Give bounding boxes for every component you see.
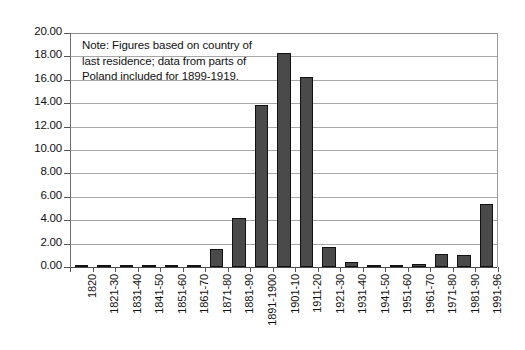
y-axis-tick-mark [64,220,70,221]
bar-chart: 20.0018.0016.0014.0012.0010.008.006.004.… [0,0,525,350]
x-axis-tick-mark [160,267,161,272]
x-axis-tick-mark [498,267,499,272]
x-axis-tick-mark [363,267,364,272]
x-axis-tick-label: 1851-60 [176,274,188,314]
y-axis-tick-label: 10.00 [0,142,62,154]
x-axis-tick-label: 1861-70 [198,274,210,314]
y-axis-tick-label: 0.00 [0,259,62,271]
x-axis-tick-label: 1831-40 [131,274,143,314]
y-axis-tick-label: 2.00 [0,236,62,248]
x-axis-tick-mark [453,267,454,272]
x-axis-tick-mark [138,267,139,272]
y-axis-tick-label: 14.00 [0,95,62,107]
bar-slot [300,33,314,267]
bar-slot [345,33,359,267]
x-axis-tick-mark [70,267,71,272]
x-axis-tick-label: 1911-20 [311,274,323,313]
x-axis-ticks [70,267,498,273]
y-axis-tick-label: 4.00 [0,212,62,224]
bar-slot [457,33,471,267]
x-axis-tick-label: 1881-90 [243,274,255,314]
chart-note-line: last residence; data from parts of [82,54,287,70]
x-axis-labels: 18201821-301831-401841-501851-601861-701… [70,274,498,346]
chart-note: Note: Figures based on country oflast re… [82,38,287,85]
x-axis-tick-label: 1921-30 [334,274,346,314]
y-axis-labels: 20.0018.0016.0014.0012.0010.008.006.004.… [0,0,66,350]
y-axis-tick-label: 12.00 [0,119,62,131]
y-axis-tick-label: 8.00 [0,165,62,177]
x-axis-tick-label: 1951-60 [401,274,413,314]
y-axis-tick-mark [64,244,70,245]
chart-note-line: Poland included for 1899-1919. [82,69,287,85]
bar[interactable] [435,254,449,267]
bar[interactable] [322,247,336,267]
y-axis-tick-mark [64,127,70,128]
y-axis-tick-mark [64,56,70,57]
x-axis-tick-mark [228,267,229,272]
y-axis-tick-mark [64,150,70,151]
bar-slot [390,33,404,267]
x-axis-tick-mark [408,267,409,272]
bar[interactable] [210,249,224,267]
bar[interactable] [255,105,269,267]
x-axis-tick-label: 1841-50 [153,274,165,314]
chart-note-line: Note: Figures based on country of [82,38,287,54]
bar-slot [367,33,381,267]
x-axis-tick-mark [340,267,341,272]
x-axis-tick-mark [273,267,274,272]
bar[interactable] [300,77,314,267]
y-axis-tick-mark [64,80,70,81]
y-axis-tick-mark [64,173,70,174]
x-axis-tick-label: 1961-70 [424,274,436,314]
bar-slot [412,33,426,267]
x-axis-tick-label: 1821-30 [108,274,120,314]
x-axis-tick-mark [430,267,431,272]
bar-slot [435,33,449,267]
x-axis-tick-mark [93,267,94,272]
x-axis-tick-mark [295,267,296,272]
x-axis-tick-mark [475,267,476,272]
y-axis-tick-label: 16.00 [0,72,62,84]
x-axis-tick-mark [115,267,116,272]
y-axis-tick-label: 18.00 [0,48,62,60]
x-axis-tick-mark [205,267,206,272]
x-axis-tick-label: 1891-1900 [266,274,278,326]
bar-slot [322,33,336,267]
x-axis-tick-label: 1981-90 [469,274,481,314]
x-axis-tick-mark [250,267,251,272]
x-axis-tick-mark [318,267,319,272]
x-axis-tick-label: 1931-40 [356,274,368,314]
x-axis-tick-label: 1991-96 [491,274,503,314]
y-axis-tick-label: 6.00 [0,189,62,201]
bar-slot [480,33,494,267]
y-axis-tick-label: 20.00 [0,25,62,37]
bar[interactable] [457,255,471,267]
x-axis-tick-label: 1941-50 [379,274,391,314]
y-axis-tick-mark [64,103,70,104]
y-axis-tick-mark [64,33,70,34]
x-axis-tick-label: 1871-80 [221,274,233,314]
bar[interactable] [277,53,291,267]
x-axis-tick-mark [385,267,386,272]
x-axis-tick-mark [183,267,184,272]
y-axis-tick-mark [64,197,70,198]
x-axis-tick-label: 1820 [86,274,98,298]
bar[interactable] [232,218,246,267]
y-axis-tick-mark [64,267,70,268]
x-axis-tick-label: 1971-80 [446,274,458,314]
x-axis-tick-label: 1901-10 [289,274,301,314]
bar[interactable] [480,204,494,267]
